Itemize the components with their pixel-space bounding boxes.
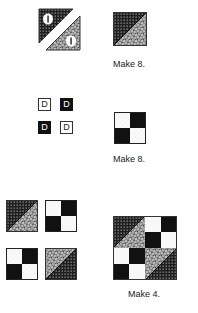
square-d-light: D (60, 121, 73, 134)
step-1-caption: Make 8. (113, 59, 145, 69)
square-d-dark: D (38, 121, 51, 134)
unit-hst-top-left (6, 200, 38, 232)
triangle-pieces-illustration (38, 8, 82, 52)
hst-result-block (113, 12, 147, 46)
four-patch-block (114, 112, 146, 144)
step-hst-pieces (38, 8, 82, 52)
unit-four-patch-bottom-left (6, 248, 38, 280)
unit-four-patch-top-right (45, 200, 77, 232)
square-d-light: D (38, 98, 51, 111)
finished-block (113, 216, 177, 280)
square-d-dark: D (60, 98, 73, 111)
unit-hst-bottom-right (45, 248, 77, 280)
step-2-caption: Make 8. (113, 154, 145, 164)
step-3-caption: Make 4. (128, 289, 160, 299)
